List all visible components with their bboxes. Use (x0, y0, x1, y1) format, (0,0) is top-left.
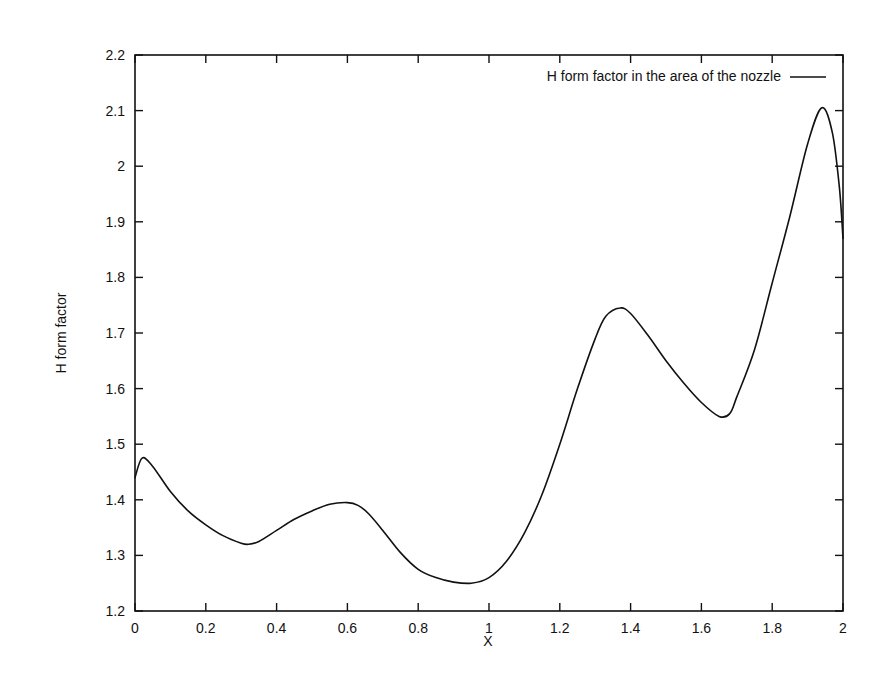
x-tick-label: 0 (131, 620, 139, 636)
x-tick-label: 0.6 (338, 620, 358, 636)
y-tick-label: 1.5 (106, 436, 126, 452)
y-tick-label: 1.3 (106, 547, 126, 563)
y-tick-label: 2.1 (106, 103, 126, 119)
y-tick-label: 1.4 (106, 492, 126, 508)
legend-label: H form factor in the area of the nozzle (547, 68, 781, 84)
x-tick-label: 2 (839, 620, 847, 636)
y-tick-label: 1.2 (106, 603, 126, 619)
y-tick-label: 1.9 (106, 214, 126, 230)
x-tick-label: 1.6 (692, 620, 712, 636)
y-tick-label: 1.6 (106, 381, 126, 397)
x-axis-ticks: 00.20.40.60.811.21.41.61.82 (131, 55, 847, 636)
x-tick-label: 1.8 (762, 620, 782, 636)
series-line-h-form-factor (135, 108, 843, 584)
y-tick-label: 1.7 (106, 325, 126, 341)
plot-frame (135, 55, 843, 611)
legend: H form factor in the area of the nozzle (547, 68, 826, 84)
y-axis-label: H form factor (53, 292, 69, 373)
y-tick-label: 2.2 (106, 47, 126, 63)
y-axis-ticks: 1.21.31.41.51.61.71.81.922.12.2 (106, 47, 843, 619)
y-tick-label: 1.8 (106, 269, 126, 285)
x-tick-label: 0.4 (267, 620, 287, 636)
x-tick-label: 1.2 (550, 620, 570, 636)
x-axis-label: X (483, 633, 493, 649)
x-tick-label: 0.2 (196, 620, 216, 636)
x-tick-label: 1.4 (621, 620, 641, 636)
chart: 00.20.40.60.811.21.41.61.82 1.21.31.41.5… (0, 0, 892, 677)
y-tick-label: 2 (117, 158, 125, 174)
x-tick-label: 0.8 (408, 620, 428, 636)
